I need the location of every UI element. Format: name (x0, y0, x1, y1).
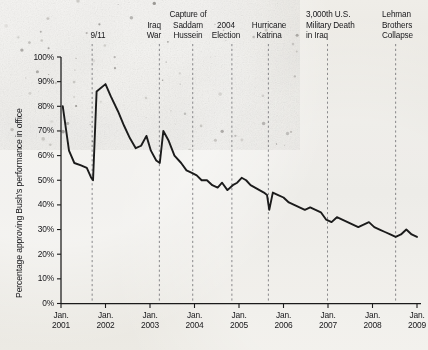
event-annotation-line: Saddam (166, 21, 210, 31)
event-annotation-label: HurricaneKatrina (246, 21, 292, 41)
event-annotation-label: 9/11 (76, 31, 120, 41)
x-tick-year: 2008 (351, 320, 395, 330)
plot-area (0, 0, 428, 350)
event-annotation-line: Military Death (306, 21, 364, 31)
x-tick-year: 2005 (217, 320, 261, 330)
event-annotation-line: Hussein (166, 31, 210, 41)
x-tick-month: Jan. (39, 310, 83, 320)
x-tick-label: Jan.2005 (217, 310, 261, 331)
event-annotation-line: Iraq (142, 21, 166, 31)
y-tick-label: 100% (18, 52, 54, 62)
x-tick-month: Jan. (128, 310, 172, 320)
x-tick-year: 2006 (262, 320, 306, 330)
event-annotation-line: Capture of (166, 10, 210, 20)
event-annotation-label: Capture ofSaddamHussein (166, 10, 210, 41)
x-tick-label: Jan.2001 (39, 310, 83, 331)
x-tick-label: Jan.2003 (128, 310, 172, 331)
y-tick-label: 50% (18, 175, 54, 185)
y-tick-label: 70% (18, 125, 54, 135)
y-tick-label: 10% (18, 273, 54, 283)
x-tick-month: Jan. (84, 310, 128, 320)
x-tick-label: Jan.2004 (173, 310, 217, 331)
x-tick-month: Jan. (351, 310, 395, 320)
event-annotation-line: Hurricane (246, 21, 292, 31)
approval-rating-line (63, 84, 417, 237)
x-tick-year: 2004 (173, 320, 217, 330)
event-annotation-label: 2004Election (206, 21, 246, 41)
event-annotation-line: Katrina (246, 31, 292, 41)
event-annotation-line: Election (206, 31, 246, 41)
event-annotation-line: Lehman (382, 10, 426, 20)
approval-rating-chart: Percentage approving Bush's performance … (0, 0, 428, 350)
x-tick-label: Jan.2008 (351, 310, 395, 331)
y-tick-label: 60% (18, 150, 54, 160)
x-tick-month: Jan. (395, 310, 428, 320)
x-tick-label: Jan.2007 (306, 310, 350, 331)
event-annotation-label: LehmanBrothersCollapse (382, 10, 426, 41)
x-tick-label: Jan.2009 (395, 310, 428, 331)
x-tick-month: Jan. (306, 310, 350, 320)
x-tick-label: Jan.2002 (84, 310, 128, 331)
x-tick-month: Jan. (262, 310, 306, 320)
event-annotation-line: War (142, 31, 166, 41)
y-tick-label: 0% (18, 298, 54, 308)
y-tick-label: 90% (18, 76, 54, 86)
x-tick-month: Jan. (173, 310, 217, 320)
x-tick-year: 2002 (84, 320, 128, 330)
x-tick-month: Jan. (217, 310, 261, 320)
y-tick-label: 30% (18, 224, 54, 234)
event-annotation-line: in Iraq (306, 31, 364, 41)
event-annotation-line: 9/11 (76, 31, 120, 41)
event-annotation-label: IraqWar (142, 21, 166, 41)
event-annotation-line: Brothers (382, 21, 426, 31)
x-tick-year: 2007 (306, 320, 350, 330)
event-annotation-line: 2004 (206, 21, 246, 31)
y-tick-label: 80% (18, 101, 54, 111)
event-annotation-line: 3,000th U.S. (306, 10, 364, 20)
x-tick-year: 2009 (395, 320, 428, 330)
event-annotation-line: Collapse (382, 31, 426, 41)
x-tick-year: 2003 (128, 320, 172, 330)
x-tick-label: Jan.2006 (262, 310, 306, 331)
y-tick-label: 40% (18, 199, 54, 209)
y-tick-label: 20% (18, 249, 54, 259)
x-tick-year: 2001 (39, 320, 83, 330)
event-annotation-label: 3,000th U.S.Military Deathin Iraq (306, 10, 364, 41)
